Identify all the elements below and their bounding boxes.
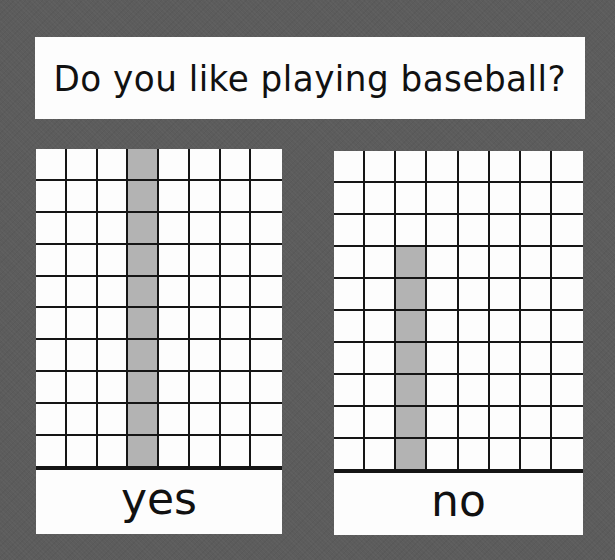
label-area-yes: yes <box>36 470 282 534</box>
grid-cell <box>251 277 282 309</box>
bar-cell <box>128 436 159 468</box>
grid-cell <box>365 279 396 311</box>
grid-cell <box>190 404 221 436</box>
grid-cell <box>36 213 67 245</box>
grid-cell <box>334 151 365 183</box>
grid-cell <box>490 183 521 215</box>
grid-cell <box>459 247 490 279</box>
grid-cell <box>521 247 552 279</box>
grid-cell <box>251 245 282 277</box>
grid-cell <box>427 407 458 439</box>
grid-cell <box>67 149 98 181</box>
bar-cell <box>396 247 427 279</box>
bar-cell <box>396 279 427 311</box>
grid-cell <box>490 439 521 471</box>
grid-cell <box>159 308 190 340</box>
grid-cell <box>190 372 221 404</box>
grid-cell <box>365 311 396 343</box>
grid-cell <box>334 343 365 375</box>
grid-cell <box>490 279 521 311</box>
grid-cell <box>98 340 129 372</box>
grid-cell <box>251 181 282 213</box>
grid-cell <box>459 279 490 311</box>
grid-cell <box>36 372 67 404</box>
grid-cell <box>221 340 252 372</box>
grid-cell <box>190 149 221 181</box>
grid-cell <box>365 407 396 439</box>
grid-cell <box>334 311 365 343</box>
grid-cell <box>221 308 252 340</box>
grid-cell <box>67 436 98 468</box>
grid-cell <box>190 277 221 309</box>
grid-cell <box>427 311 458 343</box>
grid-cell <box>552 151 583 183</box>
grid-cell <box>36 340 67 372</box>
grid-cell <box>334 375 365 407</box>
category-label-yes: yes <box>121 477 197 521</box>
panel-yes: yes <box>36 149 282 534</box>
bar-cell <box>128 213 159 245</box>
grid-cell <box>67 181 98 213</box>
grid-cell <box>365 215 396 247</box>
grid-cell <box>552 343 583 375</box>
grid-cell <box>459 151 490 183</box>
grid-cell <box>365 183 396 215</box>
grid-cell <box>334 183 365 215</box>
grid-cell <box>521 439 552 471</box>
grid-cell <box>552 215 583 247</box>
grid-cell <box>251 340 282 372</box>
grid-cell <box>159 213 190 245</box>
grid-cell <box>67 245 98 277</box>
grid-cell <box>521 183 552 215</box>
grid-cell <box>36 308 67 340</box>
bar-cell <box>128 340 159 372</box>
grid-cell <box>365 375 396 407</box>
grid-cell <box>221 436 252 468</box>
grid-cell <box>221 149 252 181</box>
grid-cell <box>427 151 458 183</box>
grid-cell <box>190 308 221 340</box>
grid-cell <box>552 407 583 439</box>
panel-no: no <box>334 151 583 535</box>
grid-cell <box>67 277 98 309</box>
grid-cell <box>521 151 552 183</box>
grid-cell <box>36 149 67 181</box>
grid-cell <box>459 407 490 439</box>
grid-cell <box>98 213 129 245</box>
grid-cell <box>334 407 365 439</box>
grid-cell <box>36 436 67 468</box>
grid-cell <box>190 436 221 468</box>
grid-cell <box>159 277 190 309</box>
grid-cell <box>98 181 129 213</box>
grid-cell <box>251 404 282 436</box>
bar-cell <box>128 308 159 340</box>
grid-cell <box>490 151 521 183</box>
bar-cell <box>128 277 159 309</box>
grid-cell <box>251 149 282 181</box>
grid-cell <box>36 404 67 436</box>
grid-cell <box>190 181 221 213</box>
grid-cell <box>459 375 490 407</box>
grid-cell <box>490 247 521 279</box>
bar-cell <box>396 407 427 439</box>
grid-cell <box>221 404 252 436</box>
grid-cell <box>98 277 129 309</box>
grid-cell <box>98 436 129 468</box>
grid-cell <box>396 215 427 247</box>
grid-cell <box>221 181 252 213</box>
grid-cell <box>490 407 521 439</box>
grid-cell <box>490 311 521 343</box>
grid-cell <box>396 183 427 215</box>
bar-cell <box>128 372 159 404</box>
grid-yes <box>36 149 282 468</box>
grid-cell <box>251 213 282 245</box>
grid-cell <box>490 215 521 247</box>
label-area-no: no <box>334 473 583 535</box>
category-label-no: no <box>431 479 486 523</box>
grid-cell <box>159 245 190 277</box>
grid-cell <box>365 343 396 375</box>
grid-cell <box>427 279 458 311</box>
grid-cell <box>334 279 365 311</box>
grid-cell <box>159 149 190 181</box>
grid-cell <box>159 404 190 436</box>
